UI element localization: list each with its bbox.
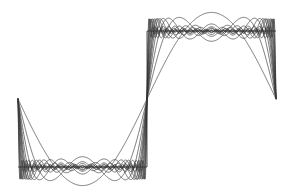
plot-canvas [0,0,293,196]
square-wave-target [18,31,276,167]
gibbs-phenomenon-figure [0,0,293,196]
